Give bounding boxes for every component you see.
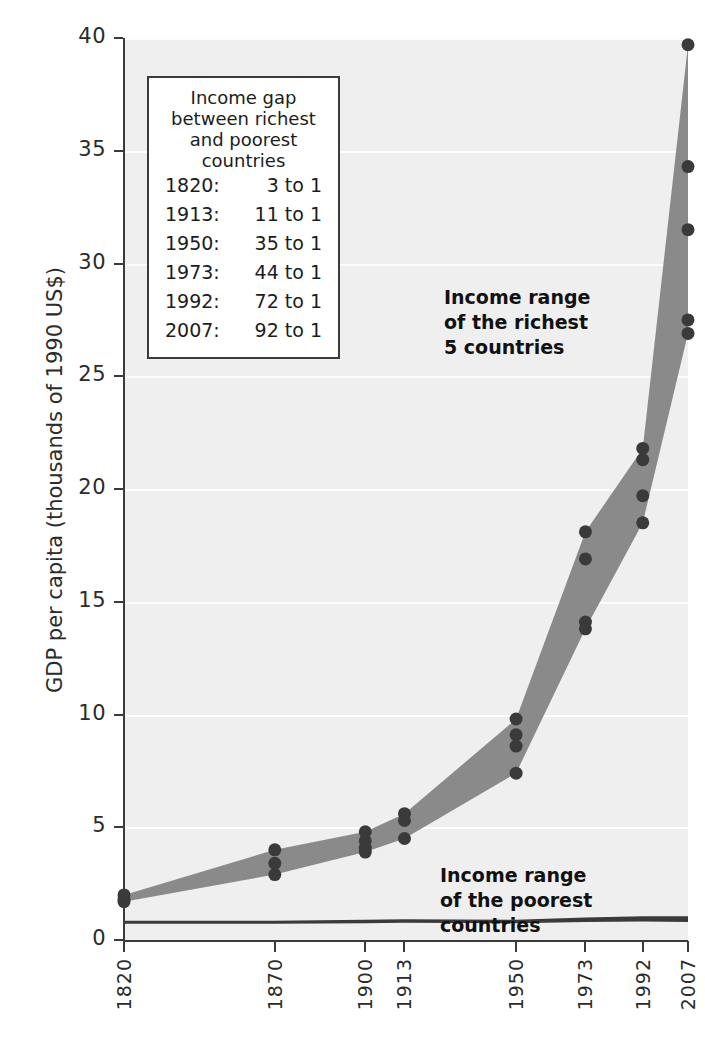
income-gap-year: 1820:: [165, 171, 233, 200]
y-axis-tick: [114, 939, 123, 941]
data-point: [579, 552, 592, 565]
income-gap-year: 1950:: [165, 229, 233, 258]
y-axis-tick: [114, 37, 123, 39]
income-gap-year: 1992:: [165, 287, 233, 316]
x-axis-tick-label: 2007: [677, 958, 699, 1010]
y-axis-tick: [114, 488, 123, 490]
data-point: [510, 767, 523, 780]
data-point: [636, 453, 649, 466]
y-axis-tick-label: 40: [0, 24, 106, 48]
x-axis-tick: [515, 941, 517, 952]
y-axis-tick: [114, 263, 123, 265]
x-axis-tick: [584, 941, 586, 952]
income-gap-ratio: 92 to 1: [233, 316, 328, 345]
income-gap-year: 1973:: [165, 258, 233, 287]
x-axis-tick-label: 1950: [505, 958, 527, 1010]
data-point: [682, 223, 695, 236]
income-gap-row-list: 1820:3 to 11913:11 to 11950:35 to 11973:…: [159, 171, 328, 345]
income-gap-ratio: 72 to 1: [233, 287, 328, 316]
data-point: [510, 728, 523, 741]
income-gap-row: 1913:11 to 1: [159, 200, 328, 229]
y-axis-tick: [114, 826, 123, 828]
data-point: [268, 868, 281, 881]
data-point: [510, 713, 523, 726]
y-axis-tick-label: 35: [0, 137, 106, 161]
income-gap-info-box: Income gap between richest and poorest c…: [147, 76, 340, 359]
x-axis-tick: [364, 941, 366, 952]
band-poorest-countries: [124, 916, 688, 923]
y-axis-tick-label: 0: [0, 926, 106, 950]
data-point: [682, 313, 695, 326]
y-axis-tick: [114, 714, 123, 716]
data-point: [510, 740, 523, 753]
income-gap-row: 1973:44 to 1: [159, 258, 328, 287]
chart-root: 0510152025303540 18201870190019131950197…: [0, 0, 705, 1047]
income-gap-row: 1950:35 to 1: [159, 229, 328, 258]
data-point: [682, 327, 695, 340]
y-axis-line: [123, 38, 125, 942]
annotation-richest-countries: Income range of the richest 5 countries: [444, 285, 590, 360]
income-gap-row: 1820:3 to 1: [159, 171, 328, 200]
data-point: [636, 516, 649, 529]
x-axis-tick: [403, 941, 405, 952]
data-point: [636, 489, 649, 502]
y-axis-tick: [114, 150, 123, 152]
income-gap-row: 2007:92 to 1: [159, 316, 328, 345]
info-box-title: Income gap between richest and poorest c…: [159, 87, 328, 171]
income-gap-ratio: 3 to 1: [233, 171, 328, 200]
income-gap-ratio: 44 to 1: [233, 258, 328, 287]
y-axis-tick: [114, 601, 123, 603]
x-axis-tick-label: 1973: [574, 958, 596, 1010]
data-point: [682, 38, 695, 51]
data-point: [359, 846, 372, 859]
x-axis-tick-label: 1900: [354, 958, 376, 1010]
data-point: [268, 843, 281, 856]
annotation-poorest-countries: Income range of the poorest countries: [440, 863, 592, 938]
y-axis-tick-label: 5: [0, 813, 106, 837]
data-point: [682, 160, 695, 173]
income-gap-ratio: 35 to 1: [233, 229, 328, 258]
x-axis-tick-label: 1992: [632, 958, 654, 1010]
data-point: [579, 622, 592, 635]
y-axis-tick: [114, 375, 123, 377]
income-gap-ratio: 11 to 1: [233, 200, 328, 229]
income-gap-row: 1992:72 to 1: [159, 287, 328, 316]
x-axis-tick-label: 1870: [264, 958, 286, 1010]
data-point: [398, 832, 411, 845]
x-axis-tick: [123, 941, 125, 952]
income-gap-year: 1913:: [165, 200, 233, 229]
x-axis-line: [123, 940, 688, 942]
data-point: [636, 442, 649, 455]
income-gap-year: 2007:: [165, 316, 233, 345]
data-point: [579, 525, 592, 538]
x-axis-tick: [642, 941, 644, 952]
x-axis-tick-label: 1820: [113, 958, 135, 1010]
y-axis-title: GDP per capita (thousands of 1990 US$): [43, 220, 67, 740]
x-axis-tick: [687, 941, 689, 952]
data-point: [268, 857, 281, 870]
x-axis-tick-label: 1913: [393, 958, 415, 1010]
x-axis-tick: [274, 941, 276, 952]
data-point: [398, 814, 411, 827]
